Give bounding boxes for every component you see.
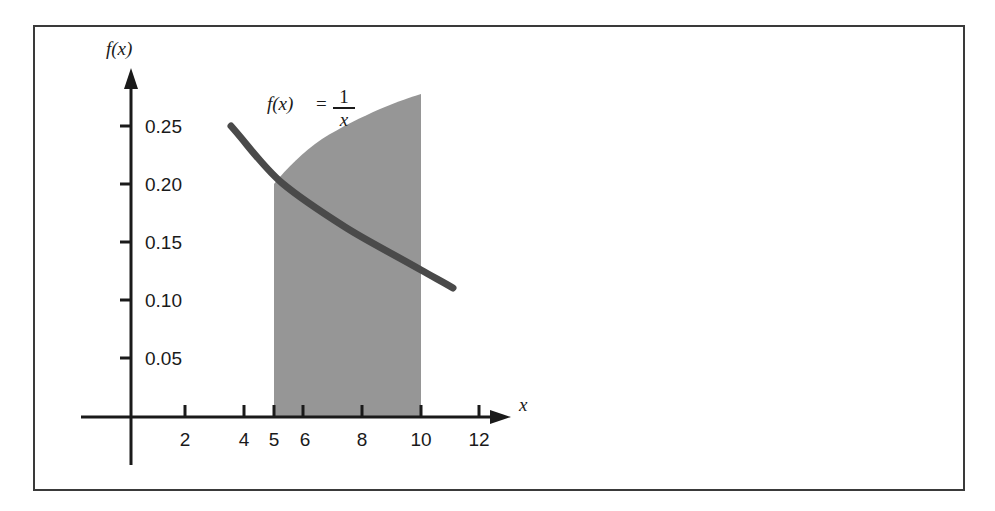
x-tick-label-2: 2 — [180, 429, 191, 450]
y-axis-arrowhead — [124, 68, 138, 89]
formula-annotation: f(x) = 1 x — [267, 86, 355, 130]
y-tick-label-025: 0.25 — [145, 116, 182, 137]
formula-denominator: x — [339, 109, 349, 130]
formula-equals: = — [316, 93, 327, 114]
formula-lhs: f(x) — [267, 93, 293, 115]
x-tick-label-5: 5 — [269, 429, 280, 450]
x-tick-label-8: 8 — [357, 429, 368, 450]
x-tick-label-10: 10 — [410, 429, 431, 450]
y-tick-label-020: 0.20 — [145, 174, 182, 195]
formula-numerator: 1 — [339, 86, 349, 107]
x-axis-label: x — [518, 394, 528, 415]
x-tick-label-12: 12 — [468, 429, 489, 450]
x-tick-label-6: 6 — [300, 429, 311, 450]
y-tick-label-015: 0.15 — [145, 232, 182, 253]
x-axis-arrowhead — [490, 410, 511, 424]
y-tick-label-010: 0.10 — [145, 290, 182, 311]
figure-border: 2 4 5 6 8 10 12 0.25 0.20 0.15 0.10 0.05… — [33, 25, 965, 491]
function-plot: 2 4 5 6 8 10 12 0.25 0.20 0.15 0.10 0.05… — [35, 27, 963, 489]
y-tick-label-005: 0.05 — [145, 348, 182, 369]
y-axis-label: f(x) — [106, 38, 132, 60]
x-tick-label-4: 4 — [239, 429, 250, 450]
